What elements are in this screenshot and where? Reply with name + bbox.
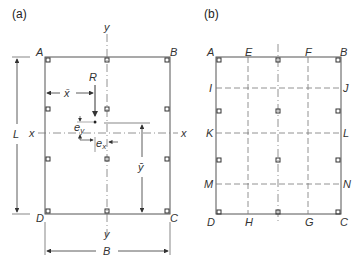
x-axis-label-left: x (28, 127, 35, 139)
pile-icon (165, 107, 169, 111)
label-j: J (342, 82, 349, 94)
x-axis-label-right: x (180, 127, 187, 139)
cap-outline-a (45, 57, 170, 214)
panel-a-label: (a) (12, 7, 27, 21)
pile-icon (217, 158, 221, 162)
resultant-label: R (89, 71, 97, 83)
piles-a (46, 58, 169, 213)
length-label: L (13, 128, 19, 140)
label-i: I (209, 82, 212, 94)
pile-icon (336, 210, 340, 214)
label-m: M (204, 178, 214, 190)
ey-label: ey (74, 121, 85, 135)
ex-label: ex (96, 137, 107, 151)
pile-icon (217, 58, 221, 62)
y-axis-label-bottom: y (103, 228, 111, 240)
label-a: A (206, 46, 214, 58)
pile-icon (165, 58, 169, 62)
label-g: G (305, 216, 314, 228)
label-k: K (206, 127, 214, 139)
label-e: E (245, 46, 253, 58)
pile-icon (336, 58, 340, 62)
section-lines (216, 57, 341, 214)
corner-d: D (36, 212, 44, 224)
label-h: H (245, 216, 253, 228)
pile-icon (165, 157, 169, 161)
y-axis-label-top: y (103, 21, 111, 33)
pile-icon (217, 109, 221, 113)
pile-icon (46, 58, 50, 62)
label-b: B (340, 46, 347, 58)
piles-b (217, 58, 340, 214)
label-l: L (343, 127, 349, 139)
pile-group-diagram: (a) A B D C y y x x (0, 0, 361, 266)
resultant-point (94, 121, 97, 124)
panel-b-label: (b) (204, 7, 219, 21)
pile-icon (336, 158, 340, 162)
panel-a: (a) A B D C y y x x (12, 7, 187, 257)
corner-a: A (35, 46, 43, 58)
pile-icon (46, 107, 50, 111)
pile-icon (165, 209, 169, 213)
corner-b: B (170, 46, 177, 58)
label-d: D (207, 216, 215, 228)
breadth-label: B (103, 245, 110, 257)
pile-icon (46, 157, 50, 161)
label-f: F (305, 46, 313, 58)
label-n: N (343, 178, 351, 190)
panel-b: (b) A E F (204, 7, 351, 228)
pile-icon (217, 210, 221, 214)
cap-outline-b (216, 57, 341, 214)
corner-c: C (170, 212, 178, 224)
ybar-label: ȳ (137, 161, 145, 173)
pile-icon (336, 109, 340, 113)
label-c: C (340, 216, 348, 228)
pile-icon (46, 209, 50, 213)
xbar-label: x̄ (63, 87, 70, 99)
